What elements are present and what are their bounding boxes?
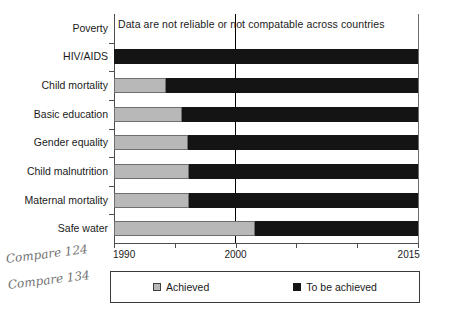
- bar-segment-to-be-achieved: [114, 49, 418, 64]
- legend-swatch-to-be-achieved: [293, 283, 301, 291]
- y-axis-tick: [109, 43, 114, 44]
- bar-segment-achieved: [114, 193, 189, 208]
- y-axis-tick: [109, 100, 114, 101]
- bar-segment-achieved: [114, 135, 188, 150]
- plot-right-border: [418, 14, 419, 243]
- legend-label-achieved: Achieved: [166, 281, 209, 293]
- bar-row: [0, 49, 449, 64]
- bar-row: [0, 164, 449, 179]
- plot-area: [114, 14, 418, 243]
- x-axis-line: [114, 243, 419, 244]
- bar-segment-achieved: [114, 221, 255, 236]
- x-axis-tick-label: 1990: [113, 249, 135, 260]
- mdg-progress-chart: PovertyHIV/AIDSChild mortalityBasic educ…: [0, 0, 449, 315]
- x-axis-tick: [357, 243, 358, 248]
- handwritten-note-2: Compare 134: [7, 268, 90, 292]
- legend-swatch-achieved: [153, 283, 161, 291]
- x-axis-tick: [296, 243, 297, 248]
- poverty-data-note: Data are not reliable or not compatable …: [118, 14, 385, 34]
- category-label: Poverty: [0, 23, 108, 34]
- bar-segment-to-be-achieved: [189, 193, 418, 208]
- bar-segment-to-be-achieved: [182, 107, 418, 122]
- bar-row: [0, 78, 449, 93]
- y-axis-tick: [109, 214, 114, 215]
- x-axis-tick-label: 2000: [224, 249, 246, 260]
- bar-segment-achieved: [114, 107, 182, 122]
- bar-segment-to-be-achieved: [255, 221, 418, 236]
- x-axis-tick: [114, 243, 115, 248]
- x-axis-tick: [236, 243, 237, 248]
- y-axis-tick: [109, 129, 114, 130]
- bar-row: [0, 221, 449, 236]
- legend-item-achieved: Achieved: [153, 281, 209, 293]
- bar-segment-achieved: [114, 164, 189, 179]
- bar-segment-achieved: [114, 78, 166, 93]
- y-axis-tick: [109, 71, 114, 72]
- category-label-column: PovertyHIV/AIDSChild mortalityBasic educ…: [0, 0, 108, 250]
- bar-segment-to-be-achieved: [166, 78, 418, 93]
- x-axis-tick: [175, 243, 176, 248]
- chart-legend: Achieved To be achieved: [110, 271, 420, 303]
- y-axis-tick: [109, 157, 114, 158]
- x-axis-tick-label: 2015: [398, 249, 420, 260]
- y-axis-tick: [109, 186, 114, 187]
- bar-segment-to-be-achieved: [189, 164, 418, 179]
- legend-item-to-be-achieved: To be achieved: [293, 281, 377, 293]
- legend-label-to-be-achieved: To be achieved: [306, 281, 377, 293]
- bar-row: [0, 193, 449, 208]
- bar-row: [0, 107, 449, 122]
- bar-row: [0, 135, 449, 150]
- bar-segment-to-be-achieved: [188, 135, 418, 150]
- x-axis-tick: [418, 243, 419, 248]
